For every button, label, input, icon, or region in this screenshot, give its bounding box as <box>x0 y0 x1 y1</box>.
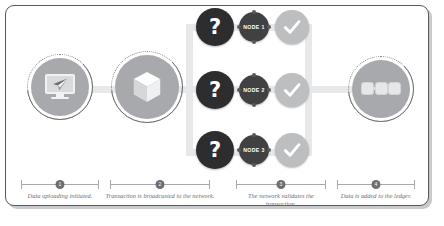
node-circle-row-1[interactable]: NODE 1 <box>239 12 269 42</box>
node-circle-row-3[interactable]: NODE 3 <box>239 135 269 165</box>
check-circle-row-2[interactable] <box>275 73 309 107</box>
caption-stage-2: Transaction is broadcasted to the networ… <box>105 192 215 200</box>
node-label-row-1: NODE 1 <box>243 24 265 30</box>
rail-validation-to-stage4 <box>305 86 353 93</box>
question-mark-icon: ? <box>209 140 221 161</box>
stage-number-4: 4 <box>372 180 381 189</box>
question-circle-row-3[interactable]: ? <box>196 131 234 169</box>
chain-links-icon <box>361 82 401 96</box>
check-icon <box>282 140 302 160</box>
diagram-canvas: ? NODE 1 ? NODE 2 ? NODE 3 <box>0 0 444 226</box>
check-circle-row-3[interactable] <box>275 133 309 167</box>
stage-4-icon-chain[interactable] <box>352 60 410 118</box>
stage-2-icon-cube[interactable] <box>115 55 179 119</box>
scale-bar-stage-4: 4 <box>337 180 415 189</box>
caption-stage-4: Data is added to the ledger. <box>334 192 418 200</box>
stage-1-icon-monitor[interactable] <box>31 58 89 116</box>
monitor-send-icon <box>45 74 75 100</box>
question-circle-row-1[interactable]: ? <box>196 8 234 46</box>
check-icon <box>282 80 302 100</box>
scale-bar-stage-2: 2 <box>110 180 210 189</box>
scale-bar-stage-3: 3 <box>236 180 326 189</box>
scale-bar-stage-1: 1 <box>21 180 99 189</box>
question-circle-row-2[interactable]: ? <box>196 71 234 109</box>
stage-number-2: 2 <box>156 180 165 189</box>
node-label-row-3: NODE 3 <box>243 147 265 153</box>
node-circle-row-2[interactable]: NODE 2 <box>239 75 269 105</box>
cube-block-icon <box>132 71 162 103</box>
check-circle-row-1[interactable] <box>275 10 309 44</box>
check-icon <box>282 17 302 37</box>
paper-plane-icon <box>52 78 69 91</box>
caption-stage-3: The network validates the transaction. <box>233 192 329 208</box>
stage-number-1: 1 <box>56 180 65 189</box>
question-mark-icon: ? <box>209 80 221 101</box>
stage-number-3: 3 <box>277 180 286 189</box>
question-mark-icon: ? <box>209 17 221 38</box>
caption-stage-1: Data uploading initiated. <box>15 192 105 200</box>
node-label-row-2: NODE 2 <box>243 87 265 93</box>
